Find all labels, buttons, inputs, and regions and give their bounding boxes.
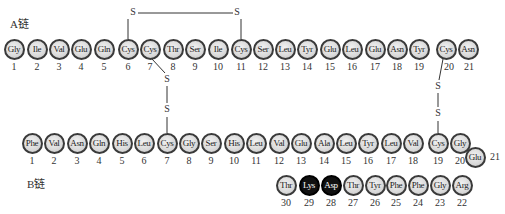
b-residue-10: His <box>224 133 245 154</box>
a-residue-18-number: 18 <box>387 61 407 72</box>
b-residue-22: Arg <box>452 175 473 196</box>
b-residue-23-number: 23 <box>430 197 450 208</box>
sulfur-a6: S <box>128 6 138 17</box>
a-residue-17-number: 17 <box>365 61 385 72</box>
a-residue-4-number: 4 <box>71 61 91 72</box>
b-residue-11: Leu <box>246 133 267 154</box>
a-residue-14: Tyr <box>297 39 318 60</box>
a-residue-17: Glu <box>365 39 386 60</box>
b-residue-6: Leu <box>134 133 155 154</box>
b-residue-14-number: 14 <box>314 155 334 166</box>
b-residue-21: Glu <box>465 147 486 168</box>
b-residue-29-number: 29 <box>299 197 319 208</box>
a-residue-19-number: 19 <box>409 61 429 72</box>
b-residue-3: Asn <box>67 133 88 154</box>
a-residue-10: Ile <box>208 39 229 60</box>
b-residue-17-number: 17 <box>381 155 401 166</box>
a-residue-9: Ser <box>185 39 206 60</box>
a-residue-7: Cys <box>140 39 161 60</box>
b-residue-6-number: 6 <box>134 155 154 166</box>
b-residue-9: Ser <box>201 133 222 154</box>
b-residue-25: Phe <box>386 175 407 196</box>
b-residue-22-number: 22 <box>452 197 472 208</box>
b-residue-24-number: 24 <box>408 197 428 208</box>
b-residue-14: Ala <box>314 133 335 154</box>
a-residue-15-number: 15 <box>320 61 340 72</box>
b-residue-5: His <box>112 133 133 154</box>
b-residue-7: Cys <box>157 133 178 154</box>
b-residue-11-number: 11 <box>246 155 266 166</box>
sulfur-b19: S <box>433 107 443 118</box>
b-residue-28-number: 28 <box>321 197 341 208</box>
a-residue-12-number: 12 <box>253 61 273 72</box>
a-residue-7-number: 7 <box>140 61 160 72</box>
sulfur-b7: S <box>162 103 172 114</box>
a-residue-8: Thr <box>163 39 184 60</box>
b-residue-27-number: 27 <box>343 197 363 208</box>
b-residue-26-number: 26 <box>365 197 385 208</box>
b-residue-26: Tyr <box>365 175 386 196</box>
a-residue-6: Cys <box>118 39 139 60</box>
b-residue-24: Phe <box>408 175 429 196</box>
b-residue-8-number: 8 <box>179 155 199 166</box>
a-residue-18: Asn <box>387 39 408 60</box>
a-residue-1: Gly <box>4 39 25 60</box>
a-residue-9-number: 9 <box>185 61 205 72</box>
b-residue-8: Gly <box>179 133 200 154</box>
b-residue-19: Cys <box>428 133 449 154</box>
b-residue-12: Val <box>269 133 290 154</box>
sulfur-a20: S <box>433 80 443 91</box>
b-residue-9-number: 9 <box>201 155 221 166</box>
a-residue-19: Tyr <box>409 39 430 60</box>
a-residue-6-number: 6 <box>118 61 138 72</box>
a-residue-15: Glu <box>320 39 341 60</box>
b-residue-18-number: 18 <box>403 155 423 166</box>
a-residue-12: Ser <box>253 39 274 60</box>
a-residue-14-number: 14 <box>297 61 317 72</box>
b-residue-4-number: 4 <box>89 155 109 166</box>
a-residue-11-number: 11 <box>231 61 251 72</box>
b-residue-16-number: 16 <box>358 155 378 166</box>
a-chain-label: A链 <box>10 15 29 31</box>
b-residue-10-number: 10 <box>224 155 244 166</box>
b-residue-2: Val <box>44 133 65 154</box>
a-residue-13: Leu <box>275 39 296 60</box>
sulfur-a11: S <box>232 6 242 17</box>
b-residue-3-number: 3 <box>67 155 87 166</box>
a-residue-5-number: 5 <box>94 61 114 72</box>
a-residue-5: Gln <box>94 39 115 60</box>
b-residue-21-number: 21 <box>485 151 505 162</box>
b-residue-23: Gly <box>430 175 451 196</box>
a-residue-10-number: 10 <box>208 61 228 72</box>
sulfur-a7: S <box>162 73 172 84</box>
a-residue-8-number: 8 <box>163 61 183 72</box>
b-residue-25-number: 25 <box>386 197 406 208</box>
b-residue-30: Thr <box>276 175 297 196</box>
b-residue-28: Asp <box>321 175 342 196</box>
a-residue-21-number: 21 <box>459 61 479 72</box>
b-residue-12-number: 12 <box>269 155 289 166</box>
a-residue-1-number: 1 <box>4 61 24 72</box>
insulin-structure-diagram: A链 B链 S S S S S S Gly1Ile2Val3Glu4Gln5Cy… <box>0 0 505 214</box>
a-residue-4: Glu <box>71 39 92 60</box>
b-residue-27: Thr <box>343 175 364 196</box>
b-residue-15-number: 15 <box>336 155 356 166</box>
a-residue-2-number: 2 <box>27 61 47 72</box>
b-residue-15: Leu <box>336 133 357 154</box>
b-residue-7-number: 7 <box>157 155 177 166</box>
a-residue-16-number: 16 <box>342 61 362 72</box>
b-residue-1: Phe <box>22 133 43 154</box>
disulfide-bond-lines <box>0 0 505 214</box>
b-residue-19-number: 19 <box>428 155 448 166</box>
b-residue-16: Tyr <box>358 133 379 154</box>
b-residue-18: Val <box>403 133 424 154</box>
b-residue-13: Glu <box>291 133 312 154</box>
b-residue-13-number: 13 <box>291 155 311 166</box>
a-residue-3: Val <box>49 39 70 60</box>
a-residue-20-number: 20 <box>439 61 459 72</box>
b-residue-5-number: 5 <box>112 155 132 166</box>
b-residue-1-number: 1 <box>22 155 42 166</box>
b-residue-2-number: 2 <box>44 155 64 166</box>
a-residue-13-number: 13 <box>275 61 295 72</box>
b-chain-label: B链 <box>27 175 45 191</box>
